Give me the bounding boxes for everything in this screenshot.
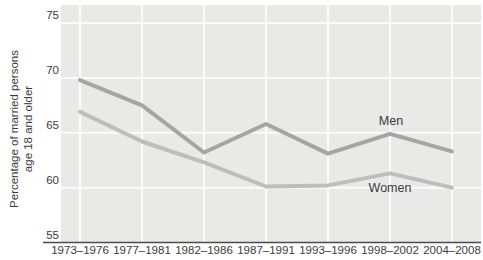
y-tick-label: 75 (46, 9, 59, 21)
y-tick-label: 70 (46, 64, 59, 76)
x-tick-label: 1977–1981 (113, 244, 171, 256)
y-tick-label: 60 (46, 174, 59, 186)
plot-background (61, 5, 481, 243)
women-label: Women (369, 181, 412, 195)
x-tick-label: 1998–2002 (361, 244, 419, 256)
y-axis-title: Percentage of married persons (8, 50, 20, 208)
plot-area: 55606570751973–19761977–19811982–1986198… (0, 0, 483, 260)
men-label: Men (379, 114, 403, 128)
y-axis-title: age 18 and older (22, 86, 34, 172)
x-tick-label: 1987–1991 (237, 244, 295, 256)
x-tick-label: 1993–1996 (299, 244, 357, 256)
x-tick-label: 1982–1986 (175, 244, 233, 256)
y-tick-label: 55 (46, 229, 59, 241)
marriage-rate-chart: 55606570751973–19761977–19811982–1986198… (0, 0, 483, 260)
x-tick-label: 1973–1976 (51, 244, 109, 256)
y-tick-label: 65 (46, 119, 59, 131)
x-tick-label: 2004–2008 (423, 244, 481, 256)
